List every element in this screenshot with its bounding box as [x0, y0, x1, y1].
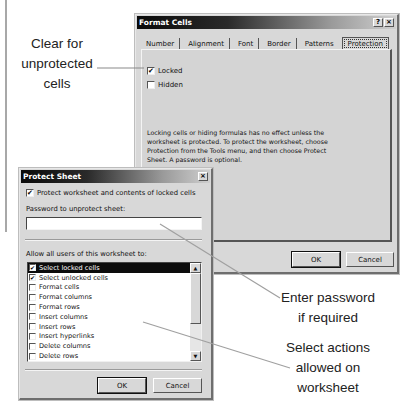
scroll-up-icon[interactable]: ▲ — [190, 263, 201, 273]
protect-sheet-title: Protect Sheet — [23, 172, 81, 181]
protection-info-text: Locking cells or hiding formulas has no … — [147, 128, 347, 164]
list-item-label: Format rows — [39, 303, 80, 311]
callout-line: Select actions — [278, 338, 378, 358]
list-item-label: Delete rows — [39, 352, 78, 360]
protect-contents-label: Protect worksheet and contents of locked… — [37, 189, 195, 197]
locked-checkbox[interactable]: ✔ — [147, 67, 155, 75]
list-item[interactable]: Format cells — [28, 283, 191, 293]
format-cells-title: Format Cells — [139, 18, 192, 27]
callout-line: worksheet — [278, 378, 378, 398]
checkbox-icon[interactable]: ✔ — [29, 274, 36, 281]
password-label: Password to unprotect sheet: — [26, 205, 125, 213]
list-item-label: Delete columns — [39, 342, 90, 350]
callout-enter-password: Enter password if required — [278, 288, 378, 328]
hidden-checkbox-row[interactable]: Hidden — [147, 81, 183, 89]
help-icon[interactable]: ? — [373, 18, 383, 27]
close-icon[interactable]: × — [198, 172, 208, 181]
protect-sheet-dialog: Protect Sheet × ✔ Protect worksheet and … — [19, 168, 213, 400]
callout-line: cells — [12, 74, 102, 94]
list-item-label: Insert hyperlinks — [39, 332, 94, 340]
protect-contents-checkbox[interactable]: ✔ — [26, 189, 34, 197]
callout-clear-for-unprotected: Clear for unprotected cells — [12, 34, 102, 94]
checkbox-icon[interactable] — [29, 353, 36, 360]
protect-sheet-titlebar[interactable]: Protect Sheet × — [21, 170, 210, 183]
separator — [25, 239, 202, 241]
callout-line: unprotected — [12, 54, 102, 74]
protect-sheet-ok-button[interactable]: OK — [98, 378, 146, 393]
hidden-checkbox[interactable] — [147, 81, 155, 89]
permissions-listbox[interactable]: ✔Select locked cells ✔Select unlocked ce… — [27, 262, 202, 362]
list-item[interactable]: ✔Select locked cells — [28, 263, 191, 273]
scrollbar-thumb[interactable] — [190, 273, 201, 324]
separator — [25, 369, 202, 371]
vertical-scrollbar[interactable]: ▲ ▼ — [190, 263, 201, 361]
close-icon[interactable]: × — [384, 18, 394, 27]
hidden-label: Hidden — [158, 81, 183, 89]
list-item[interactable]: Insert hyperlinks — [28, 332, 191, 342]
allow-users-label: Allow all users of this worksheet to: — [26, 250, 147, 258]
protect-sheet-cancel-button[interactable]: Cancel — [153, 378, 202, 393]
checkbox-icon[interactable] — [29, 294, 36, 301]
list-item[interactable]: Insert columns — [28, 312, 191, 322]
locked-label: Locked — [158, 67, 182, 75]
checkbox-icon[interactable] — [29, 323, 36, 330]
list-item-label: Format cells — [39, 283, 79, 291]
format-cells-cancel-button[interactable]: Cancel — [346, 252, 394, 267]
list-item[interactable]: ✔Select unlocked cells — [28, 273, 191, 283]
checkbox-icon[interactable] — [29, 304, 36, 311]
checkbox-icon[interactable]: ✔ — [29, 264, 36, 271]
list-item[interactable]: Delete columns — [28, 341, 191, 351]
list-item[interactable]: Delete rows — [28, 351, 191, 361]
callout-line: if required — [278, 308, 378, 328]
password-input[interactable] — [26, 217, 202, 230]
list-item-label: Select locked cells — [39, 264, 100, 272]
list-item-label: Insert rows — [39, 323, 75, 331]
callout-select-actions: Select actions allowed on worksheet — [278, 338, 378, 398]
list-item-label: Format columns — [39, 293, 92, 301]
checkbox-icon[interactable] — [29, 333, 36, 340]
margin-rule — [5, 0, 7, 232]
list-item[interactable]: Format rows — [28, 302, 191, 312]
scroll-down-icon[interactable]: ▼ — [190, 351, 201, 361]
format-cells-ok-button[interactable]: OK — [292, 252, 340, 267]
locked-checkbox-row[interactable]: ✔ Locked — [147, 67, 182, 75]
callout-line: Clear for — [12, 34, 102, 54]
protect-contents-row[interactable]: ✔ Protect worksheet and contents of lock… — [26, 189, 195, 197]
list-item-label: Select unlocked cells — [39, 274, 108, 282]
checkbox-icon[interactable] — [29, 313, 36, 320]
checkbox-icon[interactable] — [29, 343, 36, 350]
list-item-label: Insert columns — [39, 313, 88, 321]
format-cells-titlebar[interactable]: Format Cells ? × — [137, 16, 396, 29]
callout-line: Enter password — [278, 288, 378, 308]
list-item[interactable]: Insert rows — [28, 322, 191, 332]
list-item[interactable]: Format columns — [28, 292, 191, 302]
callout-line: allowed on — [278, 358, 378, 378]
checkbox-icon[interactable] — [29, 284, 36, 291]
